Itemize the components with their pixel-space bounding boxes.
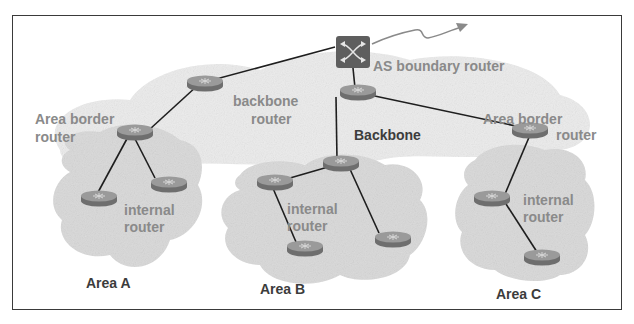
ospf-diagram: AS boundary router backbone router Backb… [0,0,634,324]
internal-router-c1-icon[interactable] [474,191,510,207]
area-border-router-c-label-line1: Area border [483,111,563,127]
internal-router-a1-icon[interactable] [81,191,117,207]
internal-router-b1-icon[interactable] [257,175,293,191]
external-link-arrow [372,27,462,44]
internal-router-c-label-line2: router [523,209,564,225]
area-a-cloud [53,124,202,267]
area-border-router-c-label-line2: router [556,127,597,143]
area-c-label: Area C [496,286,541,302]
area-b-label: Area B [260,281,305,297]
area-border-router-a-icon[interactable] [117,125,153,141]
internal-router-b3-icon[interactable] [375,232,411,248]
area-border-router-b-icon[interactable] [323,156,359,172]
backbone-label: Backbone [354,127,421,143]
as-boundary-router-label: AS boundary router [373,58,505,74]
internal-router-c2-icon[interactable] [524,250,560,266]
as-boundary-router-switch-icon[interactable] [336,36,370,68]
internal-router-b2-icon[interactable] [287,241,323,257]
backbone-router-center-icon[interactable] [340,85,376,101]
area-a-label: Area A [86,275,131,291]
internal-router-b-label-line2: router [287,218,328,234]
internal-router-a2-icon[interactable] [151,177,187,193]
area-border-router-a-label-line1: Area border [35,111,115,127]
internal-router-a-label-line1: internal [124,202,175,218]
backbone-router-left-icon[interactable] [187,76,223,92]
area-border-router-a-label-line2: router [35,129,76,145]
internal-router-c-label-line1: internal [523,192,574,208]
backbone-router-label-line1: backbone [233,93,299,109]
internal-router-b-label-line1: internal [287,201,338,217]
internal-router-a-label-line2: router [124,219,165,235]
backbone-router-label-line2: router [251,111,292,127]
